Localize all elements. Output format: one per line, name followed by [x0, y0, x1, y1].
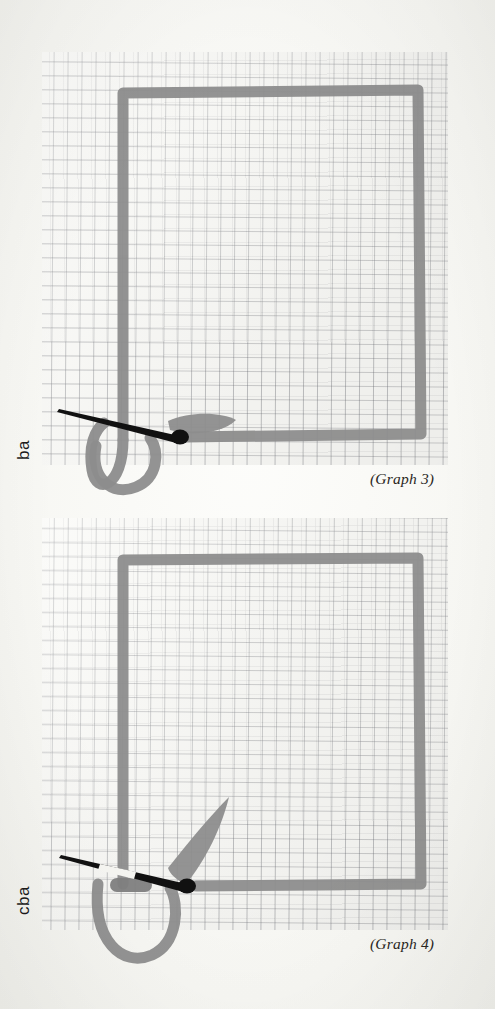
graph-4-blade — [168, 797, 229, 884]
graph-4-axis-label: cba — [14, 886, 34, 915]
graph-4-drawing — [0, 0, 495, 1009]
graph-4-caption: (Graph 4) — [370, 935, 434, 953]
graph-4-gray-path — [123, 558, 421, 886]
page-background: ba (Graph 3) cba (Graph 4) — [0, 0, 495, 1009]
graph-4-hook-curve — [97, 884, 175, 958]
